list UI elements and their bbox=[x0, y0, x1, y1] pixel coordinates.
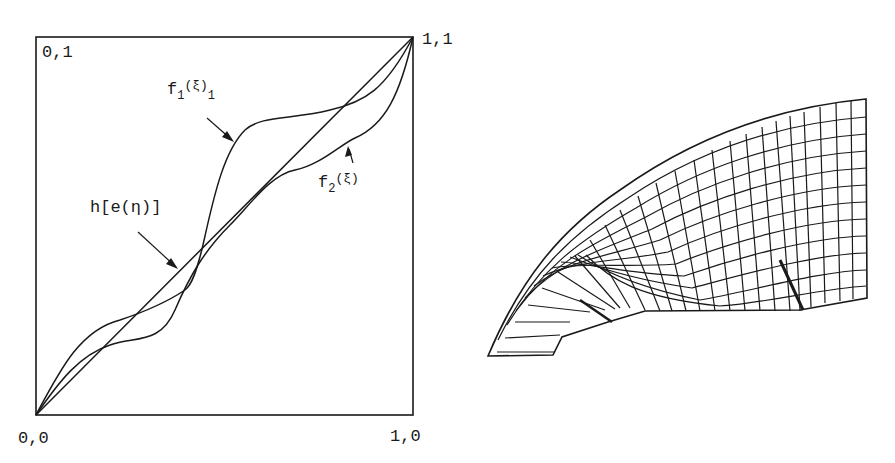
curvilinear-mesh bbox=[488, 99, 867, 356]
corner-label-bottom-right: 1,0 bbox=[390, 427, 421, 446]
label-h: h[e(η)] bbox=[90, 198, 161, 217]
label-f1-trailing: 1 bbox=[208, 89, 215, 103]
label-f2-name: f bbox=[318, 173, 328, 192]
label-f2: f2(ξ) bbox=[318, 173, 359, 192]
corner-label-bottom-left: 0,0 bbox=[18, 429, 49, 448]
arrow-h bbox=[138, 232, 178, 269]
arrow-f2 bbox=[345, 146, 353, 163]
label-f1-name: f bbox=[167, 80, 177, 99]
label-f1-arg: (ξ) bbox=[184, 78, 207, 93]
curve-h bbox=[36, 37, 413, 415]
label-f2-arg: (ξ) bbox=[335, 171, 358, 186]
function-plot bbox=[0, 0, 895, 463]
arrow-f1 bbox=[207, 118, 234, 142]
label-f1: f1(ξ)1 bbox=[167, 80, 215, 99]
corner-label-top-right: 1,1 bbox=[422, 30, 453, 49]
corner-label-top-left: 0,1 bbox=[42, 43, 73, 62]
